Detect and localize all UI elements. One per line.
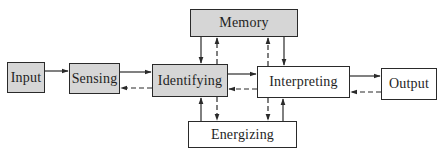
- node-sensing-label: Sensing: [72, 71, 118, 87]
- node-input-label: Input: [11, 70, 42, 86]
- node-energizing: Energizing: [188, 121, 297, 148]
- node-identifying: Identifying: [152, 64, 228, 97]
- node-output: Output: [381, 68, 437, 100]
- node-sensing: Sensing: [69, 63, 120, 94]
- node-interpreting-label: Interpreting: [269, 74, 337, 90]
- node-memory-label: Memory: [219, 15, 268, 31]
- node-interpreting: Interpreting: [257, 66, 350, 98]
- node-input: Input: [7, 62, 45, 93]
- node-output-label: Output: [389, 76, 429, 92]
- node-memory: Memory: [190, 9, 298, 37]
- node-identifying-label: Identifying: [158, 73, 222, 89]
- node-energizing-label: Energizing: [211, 127, 274, 143]
